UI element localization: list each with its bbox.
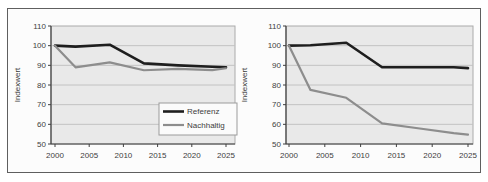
chart-right: 5060708090100110200020052010201520202025…	[240, 22, 477, 160]
charts-canvas: 5060708090100110200020052010201520202025…	[8, 9, 478, 170]
chart-left: 5060708090100110200020052010201520202025…	[13, 22, 237, 160]
y-tick-label: 50	[37, 140, 46, 149]
x-tick-label: 2005	[80, 151, 98, 160]
x-tick-label: 2025	[459, 151, 477, 160]
x-tick-label: 2020	[183, 151, 201, 160]
x-tick-label: 2010	[352, 151, 370, 160]
x-tick-label: 2025	[217, 151, 235, 160]
y-tick-label: 60	[37, 120, 46, 129]
x-tick-label: 2015	[388, 151, 406, 160]
y-tick-label: 90	[37, 61, 46, 70]
y-tick-label: 60	[272, 120, 281, 129]
y-tick-label: 80	[272, 81, 281, 90]
y-tick-label: 70	[272, 100, 281, 109]
x-tick-label: 2020	[423, 151, 441, 160]
x-tick-label: 2010	[115, 151, 133, 160]
y-tick-label: 110	[33, 22, 46, 31]
y-tick-label: 70	[37, 100, 46, 109]
y-tick-label: 80	[37, 81, 46, 90]
y-tick-label: 90	[272, 61, 281, 70]
x-tick-label: 2005	[316, 151, 334, 160]
y-axis-title: Indexwert	[13, 67, 22, 102]
figure-panel: 5060708090100110200020052010201520202025…	[7, 8, 481, 173]
legend: ReferenzNachhaltig	[159, 103, 237, 135]
y-axis-title: Indexwert	[240, 67, 249, 102]
legend-label: Referenz	[187, 107, 219, 116]
y-tick-label: 100	[33, 41, 47, 50]
x-tick-label: 2015	[149, 151, 167, 160]
y-tick-label: 100	[268, 41, 282, 50]
x-tick-label: 2000	[46, 151, 64, 160]
y-tick-label: 50	[272, 140, 281, 149]
x-tick-label: 2000	[280, 151, 298, 160]
legend-label: Nachhaltig	[187, 121, 225, 130]
y-tick-label: 110	[268, 22, 281, 31]
